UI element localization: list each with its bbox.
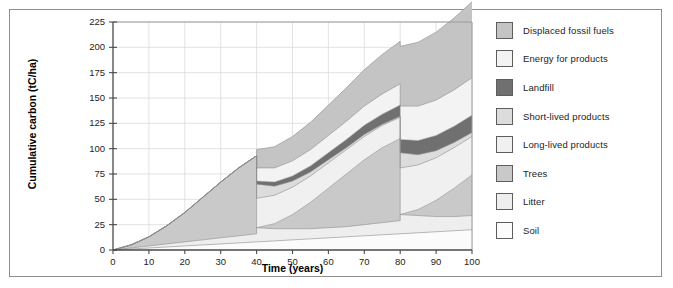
y-tick-label: 100 (71, 143, 105, 154)
legend-item[interactable]: Landfill (496, 73, 656, 102)
y-axis-title: Cumulative carbon (tC/ha) (26, 49, 38, 199)
y-tick-label: 150 (71, 92, 105, 103)
y-tick-label: 50 (71, 193, 105, 204)
legend-item-label: Short-lived products (523, 111, 609, 122)
legend-item[interactable]: Long-lived products (496, 130, 656, 159)
y-tick-label: 175 (71, 67, 105, 78)
legend-item[interactable]: Litter (496, 188, 656, 217)
legend-swatch-icon (496, 22, 513, 39)
legend-item[interactable]: Soil (496, 216, 656, 245)
y-tick-label: 200 (71, 41, 105, 52)
figure-container: 0255075100125150175200225 01020304050607… (0, 0, 673, 288)
legend-swatch-icon (496, 136, 513, 153)
legend-swatch-icon (496, 222, 513, 239)
legend-item-label: Soil (523, 225, 539, 236)
legend-item-label: Energy for products (523, 53, 608, 64)
legend-item[interactable]: Displaced fossil fuels (496, 16, 656, 45)
legend-item[interactable]: Short-lived products (496, 102, 656, 131)
legend-item-label: Landfill (523, 82, 554, 93)
legend-item-label: Long-lived products (523, 139, 608, 150)
legend-item-label: Trees (523, 168, 547, 179)
legend-swatch-icon (496, 193, 513, 210)
legend-swatch-icon (496, 50, 513, 67)
y-tick-label: 75 (71, 168, 105, 179)
legend-item-label: Displaced fossil fuels (523, 25, 614, 36)
legend-item-label: Litter (523, 196, 545, 207)
legend-item[interactable]: Energy for products (496, 45, 656, 74)
legend-swatch-icon (496, 108, 513, 125)
y-tick-label: 0 (71, 244, 105, 255)
legend-swatch-icon (496, 79, 513, 96)
chart-legend: Displaced fossil fuelsEnergy for product… (496, 16, 656, 245)
y-tick-label: 25 (71, 219, 105, 230)
x-axis-title: Time (years) (113, 262, 472, 274)
y-tick-label: 225 (71, 16, 105, 27)
legend-swatch-icon (496, 165, 513, 182)
y-tick-label: 125 (71, 117, 105, 128)
legend-item[interactable]: Trees (496, 159, 656, 188)
